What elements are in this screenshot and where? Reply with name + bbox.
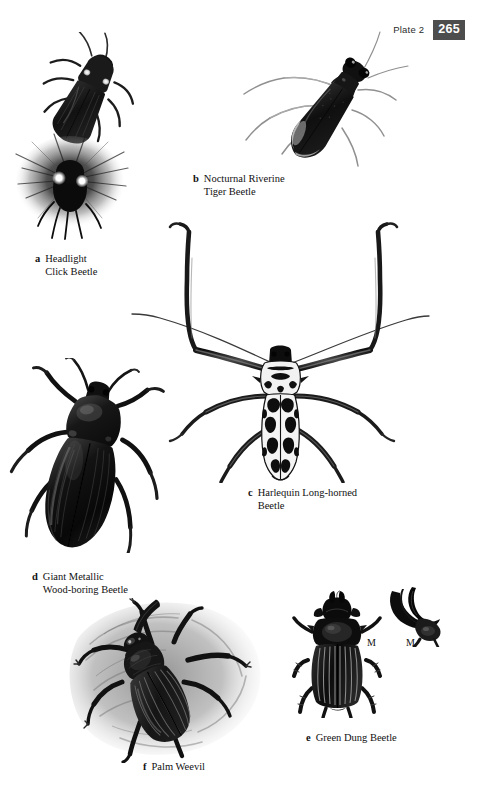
figure-nocturnal-riverine-tiger-beetle [230, 28, 410, 178]
caption-letter-e: e [306, 731, 311, 744]
caption-text-e: Green Dung Beetle [316, 731, 397, 744]
caption-text-f: Palm Weevil [152, 760, 206, 773]
figure-palm-weevil [60, 598, 285, 763]
caption-letter-c: c [248, 486, 253, 499]
caption-letter-a: a [35, 252, 40, 265]
caption-e: e Green Dung Beetle [306, 731, 397, 744]
caption-text-c: Harlequin Long-horned Beetle [258, 486, 357, 512]
figure-headlight-click-beetle-glowing [8, 128, 138, 240]
caption-letter-b: b [193, 172, 199, 185]
plate-page: Plate 2 265 [0, 0, 477, 807]
caption-b: b Nocturnal Riverine Tiger Beetle [193, 172, 285, 198]
caption-a: a Headlight Click Beetle [35, 252, 97, 278]
male-marker-right: M [406, 637, 415, 648]
male-marker-left: M [367, 637, 376, 648]
caption-letter-d: d [32, 570, 38, 583]
figure-green-dung-beetle [292, 588, 382, 718]
caption-text-b: Nocturnal Riverine Tiger Beetle [204, 172, 285, 198]
caption-d: d Giant Metallic Wood-boring Beetle [32, 570, 128, 596]
caption-letter-f: f [143, 760, 147, 773]
caption-f: f Palm Weevil [143, 760, 205, 773]
caption-text-a: Headlight Click Beetle [45, 252, 97, 278]
figure-giant-metallic-wood-boring-beetle [2, 358, 182, 553]
caption-c: c Harlequin Long-horned Beetle [248, 486, 357, 512]
page-number-badge: 265 [433, 20, 465, 40]
caption-text-d: Giant Metallic Wood-boring Beetle [43, 570, 128, 596]
